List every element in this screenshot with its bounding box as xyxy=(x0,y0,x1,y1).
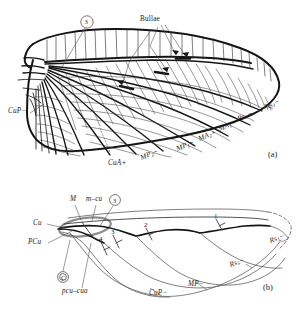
vein-label-cup-minus: CuP− xyxy=(8,108,26,115)
panel-b-label-pcu: PCu xyxy=(28,239,41,246)
panel-b-caption: (b) xyxy=(263,283,273,292)
panel-b-circled-c: C xyxy=(61,274,65,281)
panel-b-circled-three: 3 xyxy=(113,197,116,204)
panel-a-caption: (a) xyxy=(268,150,277,159)
panel-b-label-mp: MP− xyxy=(188,281,204,288)
panel-b-label-m: M xyxy=(70,196,76,203)
schematic-rs-trunk-mid xyxy=(136,230,200,236)
schematic-vein-mp xyxy=(136,236,285,285)
sector-tick-marks xyxy=(101,219,225,255)
panel-b-sector-3: 3 xyxy=(111,228,115,236)
panel-a-label-leaders xyxy=(30,104,273,113)
panel-b-sector-1: 1 xyxy=(214,212,218,220)
schematic-margin-dashed-apex xyxy=(268,212,291,226)
panel-b-circled-markers xyxy=(58,195,121,283)
wing-base-axillary-1 xyxy=(24,58,44,60)
wing-base-axillary-2 xyxy=(22,66,44,68)
panel-b-sector-2: 2 xyxy=(144,221,148,229)
wing-base-axillary-3 xyxy=(23,73,45,74)
panel-b-label-cup: CuP− xyxy=(149,290,167,297)
panel-b-label-pcu-cua: pcu–cua xyxy=(62,288,88,295)
vein-label-cua-plus: CuA+ xyxy=(108,160,126,167)
wing-base-axillary-4 xyxy=(18,79,45,80)
bullae-label: Bullae xyxy=(140,16,160,23)
circled-three-label-a: 3 xyxy=(85,18,88,25)
vein-radius-anterior xyxy=(45,60,253,69)
panel-b-sector-4: 4 xyxy=(99,235,103,243)
panel-b-label-m-cu: m–cu xyxy=(86,196,102,203)
panel-b-label-cu: Cu xyxy=(33,220,42,227)
panel-a-drawing xyxy=(18,16,279,157)
panel-b-drawing xyxy=(47,195,291,298)
schematic-rs-trunk-distal xyxy=(200,225,270,233)
